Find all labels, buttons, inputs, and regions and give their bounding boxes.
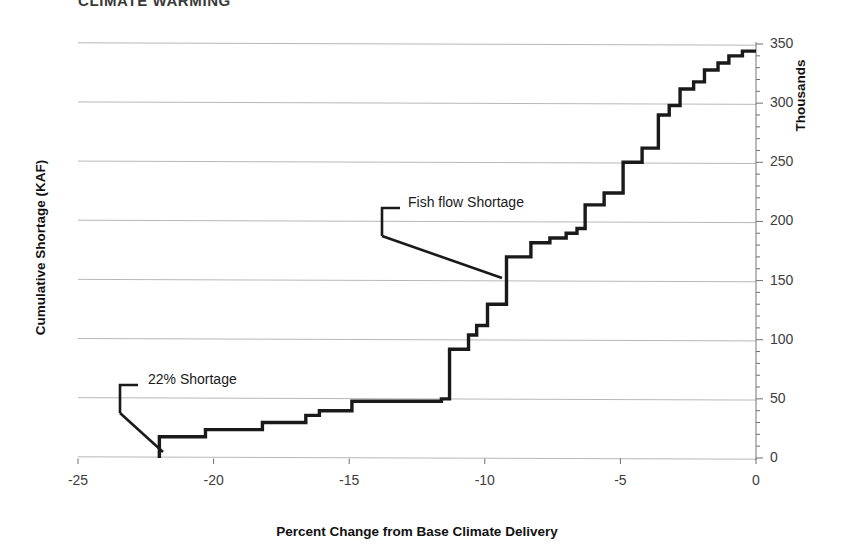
y-tick-label-200: 200	[770, 212, 793, 228]
gridline-250	[78, 161, 756, 163]
gridline-150	[78, 279, 756, 281]
x-tick-label-0: 0	[731, 472, 781, 488]
y-tick-label-100: 100	[770, 331, 793, 347]
plot-area	[0, 0, 841, 557]
y-axis-minor-ticks	[756, 44, 763, 458]
gridline-100	[78, 339, 756, 341]
x-tick-label--25: -25	[53, 472, 103, 488]
gridline-200	[78, 220, 756, 222]
annotation-bracket-fish-flow-shortage	[382, 208, 400, 236]
x-tick-label--10: -10	[460, 472, 510, 488]
y-tick-label-250: 250	[770, 153, 793, 169]
y-tick-label-0: 0	[770, 449, 778, 465]
series-line	[159, 51, 756, 458]
y-tick-label-300: 300	[770, 94, 793, 110]
annotation-bracket-shortage-22	[120, 385, 138, 413]
step-series-cumulative-shortage	[159, 51, 756, 458]
gridline-0	[78, 457, 756, 459]
annotation-leader-shortage-22	[120, 413, 163, 452]
x-tick-label--5: -5	[595, 472, 645, 488]
annotation-leader-fish-flow-shortage	[382, 236, 502, 278]
gridline-300	[78, 102, 756, 104]
gridline-350	[78, 43, 756, 45]
chart-figure: CLIMATE WARMING Cumulative Shortage (KAF…	[0, 0, 841, 557]
x-tick-label--20: -20	[189, 472, 239, 488]
y-tick-label-50: 50	[770, 390, 786, 406]
x-tick-label--15: -15	[324, 472, 374, 488]
annotation-label-shortage-22: 22% Shortage	[148, 371, 237, 387]
annotation-label-fish-flow-shortage: Fish flow Shortage	[408, 194, 524, 210]
y-tick-label-350: 350	[770, 35, 793, 51]
y-tick-label-150: 150	[770, 272, 793, 288]
gridlines	[78, 43, 756, 459]
